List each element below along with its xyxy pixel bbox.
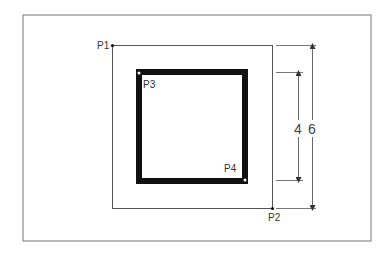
outer-frame bbox=[23, 15, 371, 241]
diagram-canvas: P1 P2 P3 P4 4 6 bbox=[0, 0, 392, 255]
point-p2-marker bbox=[271, 207, 274, 210]
point-p2-label: P2 bbox=[268, 212, 281, 223]
dimension-label-4: 4 bbox=[294, 121, 302, 137]
point-p4-marker bbox=[244, 179, 247, 182]
point-p4-label: P4 bbox=[224, 163, 237, 174]
point-p1-marker bbox=[111, 44, 114, 47]
dimension-label-6: 6 bbox=[308, 121, 316, 137]
point-p3-label: P3 bbox=[143, 79, 156, 90]
point-p3-marker bbox=[138, 72, 141, 75]
point-p1-label: P1 bbox=[97, 40, 110, 51]
